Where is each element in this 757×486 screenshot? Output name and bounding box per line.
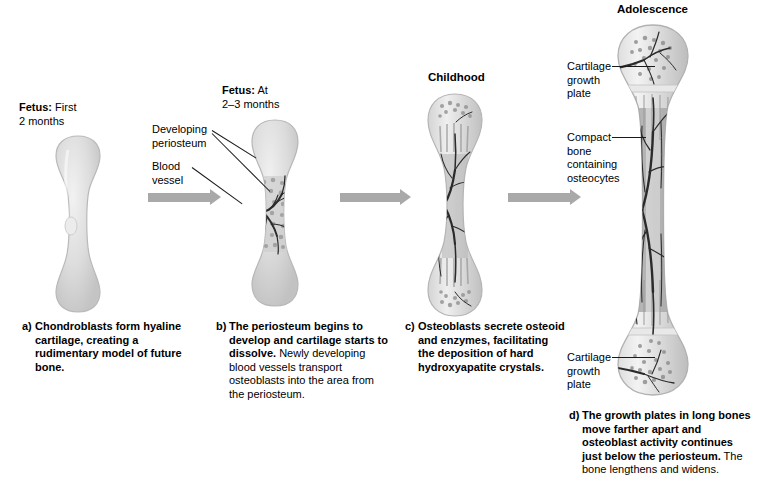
figure-canvas: Fetus: First 2 months xyxy=(0,0,757,486)
progress-arrow-1 xyxy=(148,189,222,206)
leader-growth-plate-top xyxy=(612,66,655,67)
callout-developing-periosteum: Developing periosteum xyxy=(152,123,207,150)
progress-arrow-3 xyxy=(508,189,582,206)
bone-illustration-stage2 xyxy=(237,118,313,308)
caption-c-bold: Osteoblasts secrete osteoid and enzymes,… xyxy=(418,320,565,373)
caption-d: d) The growth plates in long bones move … xyxy=(569,409,755,477)
callout-compact-bone: Compact bone containing osteocytes xyxy=(567,131,620,185)
caption-a: a) Chondroblasts form hyaline cartilage,… xyxy=(22,320,192,374)
caption-c: c) Osteoblasts secrete osteoid and enzym… xyxy=(405,320,565,374)
caption-b-index: b) xyxy=(216,320,226,334)
bone-illustration-stage4 xyxy=(604,22,702,398)
caption-b-text: The periosteum begins to develop and car… xyxy=(216,320,392,402)
stage-label-3: Childhood xyxy=(428,70,485,84)
stage-label-1-bold: Fetus: xyxy=(19,101,52,113)
stage-label-2-bold: Fetus: xyxy=(222,84,255,96)
caption-b: b) The periosteum begins to develop and … xyxy=(216,320,392,402)
caption-a-text: Chondroblasts form hyaline cartilage, cr… xyxy=(22,320,192,374)
stage-label-2: Fetus: At 2–3 months xyxy=(222,84,279,111)
caption-a-bold: Chondroblasts form hyaline cartilage, cr… xyxy=(35,320,182,373)
callout-cartilage-growth-plate-top: Cartilage growth plate xyxy=(567,60,611,101)
progress-arrow-2 xyxy=(340,189,412,206)
callout-blood-vessel: Blood vessel xyxy=(152,160,183,187)
leader-compact-bone xyxy=(612,137,646,138)
stage-label-1: Fetus: First 2 months xyxy=(19,101,76,128)
caption-a-index: a) xyxy=(22,320,32,334)
stage-label-4: Adolescence xyxy=(617,2,688,16)
caption-d-index: d) xyxy=(569,409,579,423)
callout-cartilage-growth-plate-bottom: Cartilage growth plate xyxy=(567,351,611,392)
caption-d-text: The growth plates in long bones move far… xyxy=(569,409,755,477)
leader-growth-plate-bottom xyxy=(612,357,655,358)
caption-c-text: Osteoblasts secrete osteoid and enzymes,… xyxy=(405,320,565,374)
bone-illustration-stage3 xyxy=(412,92,498,318)
caption-c-index: c) xyxy=(405,320,415,334)
bone-illustration-stage1 xyxy=(42,134,116,314)
